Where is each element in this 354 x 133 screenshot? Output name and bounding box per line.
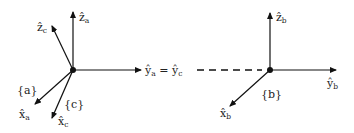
- frame-c-label: {c}: [64, 98, 84, 111]
- x-c-label: x̂c: [58, 115, 68, 129]
- z-b-label: ẑb: [276, 11, 287, 25]
- y-b-label: ŷb: [326, 77, 338, 91]
- shared-y-label: ŷa = ŷc: [144, 64, 182, 78]
- z-a-label: ẑa: [79, 11, 90, 25]
- frame-a-label: {a}: [17, 84, 38, 97]
- origin-b: [267, 67, 273, 73]
- x-a-label: x̂a: [19, 108, 30, 122]
- x-b-label: x̂b: [220, 107, 231, 121]
- origin-a-c: [70, 67, 76, 73]
- frame-b-label: {b}: [261, 88, 282, 101]
- frame-b: ẑb ŷb {b} x̂b: [220, 11, 338, 121]
- z-c-label: ẑc: [37, 21, 47, 35]
- frame-a-c: ẑa ẑc {a} x̂a {c} x̂c: [17, 11, 141, 129]
- coordinate-frames-diagram: ẑa ẑc {a} x̂a {c} x̂c ŷa = ŷc ẑb ŷb {b} …: [0, 0, 354, 133]
- z-c-axis: [52, 26, 73, 70]
